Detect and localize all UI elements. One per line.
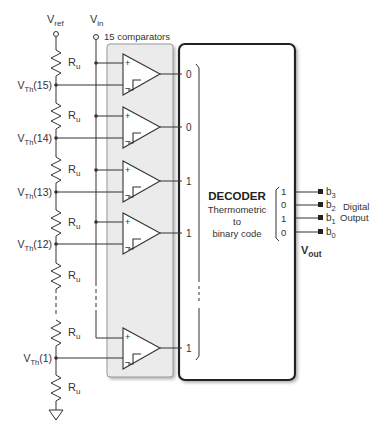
svg-text:0: 0 xyxy=(281,227,286,238)
vin-terminal xyxy=(94,35,99,40)
svg-text:+: + xyxy=(125,332,130,342)
svg-text:−: − xyxy=(125,83,131,94)
svg-text:Ru: Ru xyxy=(68,109,80,124)
svg-text:b0: b0 xyxy=(326,226,336,240)
svg-text:VTh(1): VTh(1) xyxy=(23,352,52,367)
comparators-panel xyxy=(107,44,173,377)
svg-text:DECODER: DECODER xyxy=(208,190,266,202)
output-bit-labels: b3 b2 b1 b0 xyxy=(326,186,336,240)
svg-text:−: − xyxy=(125,190,131,201)
svg-text:b3: b3 xyxy=(326,186,336,200)
svg-text:Ru: Ru xyxy=(68,381,80,396)
flash-adc-diagram: Vref Vin 15 comparators Ru Ru Ru Ru Ru xyxy=(0,0,384,440)
svg-text:VTh(15): VTh(15) xyxy=(18,79,52,94)
svg-text:0: 0 xyxy=(186,69,192,80)
svg-text:0: 0 xyxy=(186,122,192,133)
svg-text:b2: b2 xyxy=(326,199,336,213)
svg-text:1: 1 xyxy=(186,228,192,239)
svg-text:1: 1 xyxy=(186,176,192,187)
svg-text:−: − xyxy=(125,357,131,368)
svg-text:VTh(14): VTh(14) xyxy=(18,132,52,147)
svg-text:Digital: Digital xyxy=(343,201,369,212)
svg-text:to: to xyxy=(233,216,241,227)
output-pins xyxy=(318,189,323,234)
svg-text:Ru: Ru xyxy=(68,216,80,231)
svg-text:Output: Output xyxy=(340,212,369,223)
output-lines xyxy=(295,192,318,232)
svg-text:Ru: Ru xyxy=(68,326,80,341)
svg-text:binary code: binary code xyxy=(212,228,261,239)
svg-text:1: 1 xyxy=(281,186,286,197)
svg-text:Ru: Ru xyxy=(68,269,80,284)
vref-label: Vref xyxy=(47,13,64,28)
svg-text:+: + xyxy=(125,217,130,227)
decoder-label: DECODER Thermometric to binary code xyxy=(208,190,267,239)
vin-label: Vin xyxy=(90,13,104,28)
svg-text:+: + xyxy=(125,111,130,121)
threshold-node-labels: VTh(15) VTh(14) VTh(13) VTh(12) VTh(1) xyxy=(18,79,52,367)
svg-text:0: 0 xyxy=(281,199,286,210)
svg-text:−: − xyxy=(125,136,131,147)
comparators-title: 15 comparators xyxy=(104,31,170,42)
svg-text:+: + xyxy=(125,165,130,175)
svg-text:VTh(13): VTh(13) xyxy=(18,186,52,201)
svg-text:b1: b1 xyxy=(326,212,336,226)
svg-text:Ru: Ru xyxy=(68,56,80,71)
svg-text:Thermometric: Thermometric xyxy=(208,204,267,215)
svg-text:+: + xyxy=(125,58,130,68)
svg-text:1: 1 xyxy=(186,343,192,354)
resistor-labels: Ru Ru Ru Ru Ru Ru Ru xyxy=(68,56,80,396)
svg-text:Ru: Ru xyxy=(68,163,80,178)
svg-text:VTh(12): VTh(12) xyxy=(18,238,52,253)
svg-text:1: 1 xyxy=(281,213,286,224)
digital-output-label: Digital Output xyxy=(340,201,369,223)
svg-text:−: − xyxy=(125,242,131,253)
vref-terminal xyxy=(54,32,59,37)
vout-label: Vout xyxy=(301,244,322,259)
